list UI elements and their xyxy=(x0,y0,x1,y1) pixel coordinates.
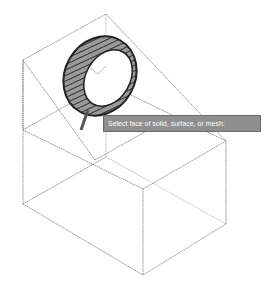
ring-object[interactable] xyxy=(49,23,151,130)
drawing-viewport[interactable]: Select face of solid, surface, or mesh: xyxy=(0,0,276,281)
command-tooltip: Select face of solid, surface, or mesh: xyxy=(103,115,261,132)
wireframe-model xyxy=(0,0,276,281)
